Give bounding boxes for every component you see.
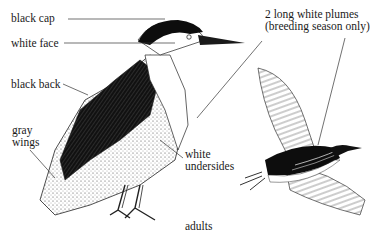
label-white-plumes-line1: 2 long white plumes bbox=[265, 8, 370, 20]
label-white-undersides-line2: undersides bbox=[185, 160, 234, 172]
leader-black-back bbox=[63, 84, 88, 95]
label-white-undersides-line1: white bbox=[185, 148, 234, 160]
label-white-plumes-line2: (breeding season only) bbox=[265, 20, 370, 32]
label-gray-wings-line2: wings bbox=[12, 136, 39, 148]
label-white-undersides: white undersides bbox=[185, 148, 234, 172]
standing-heron bbox=[40, 20, 245, 220]
label-white-face: white face bbox=[11, 37, 59, 49]
label-gray-wings-line1: gray bbox=[12, 124, 39, 136]
label-white-plumes: 2 long white plumes (breeding season onl… bbox=[265, 8, 370, 32]
flying-heron bbox=[240, 68, 365, 215]
figure-caption: adults bbox=[185, 220, 212, 232]
label-black-back: black back bbox=[11, 78, 61, 90]
leader-plumes-flying bbox=[318, 38, 345, 145]
label-gray-wings: gray wings bbox=[12, 124, 39, 148]
leader-plumes-standing bbox=[197, 41, 262, 118]
label-black-cap: black cap bbox=[11, 12, 55, 24]
